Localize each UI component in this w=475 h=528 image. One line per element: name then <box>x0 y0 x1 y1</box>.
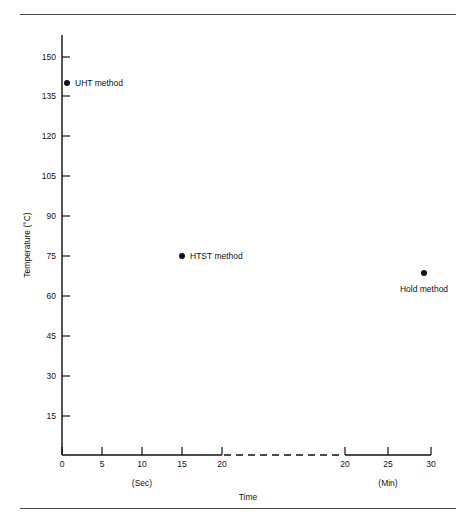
data-point-marker[interactable] <box>64 80 70 86</box>
data-point-label-uht: UHT method <box>75 78 123 88</box>
y-tick-label-15: 15 <box>47 411 57 421</box>
y-axis: 150 135 120 105 90 75 60 45 30 15 Temper… <box>22 35 70 455</box>
data-point-label-htst: HTST method <box>190 251 243 261</box>
x-axis-ticks-seconds <box>62 447 222 455</box>
y-axis-title: Temperature (°C) <box>22 212 32 277</box>
y-tick-label-90: 90 <box>47 211 57 221</box>
x-axis: 0 5 10 15 20 20 25 30 (Sec) (Min) Time <box>60 447 436 502</box>
x-tick-label-sec-0: 0 <box>60 459 65 469</box>
scatter-plot: 150 135 120 105 90 75 60 45 30 15 Temper… <box>0 0 475 528</box>
x-tick-label-min-30: 30 <box>426 459 436 469</box>
y-tick-label-120: 120 <box>42 131 56 141</box>
data-point-label-hold: Hold method <box>400 284 448 294</box>
y-tick-label-75: 75 <box>47 251 57 261</box>
y-tick-label-45: 45 <box>47 331 57 341</box>
x-axis-ticks-minutes <box>345 447 431 455</box>
data-point-hold-method[interactable]: Hold method <box>400 270 448 294</box>
x-tick-label-sec-15: 15 <box>177 459 187 469</box>
data-point-marker[interactable] <box>421 270 427 276</box>
data-point-htst-method[interactable]: HTST method <box>179 251 243 261</box>
x-tick-label-min-20: 20 <box>340 459 350 469</box>
data-point-marker[interactable] <box>179 253 185 259</box>
figure-container: 150 135 120 105 90 75 60 45 30 15 Temper… <box>0 0 475 528</box>
x-tick-label-sec-5: 5 <box>100 459 105 469</box>
y-axis-ticks <box>62 57 70 416</box>
y-tick-label-135: 135 <box>42 91 56 101</box>
x-tick-label-sec-10: 10 <box>137 459 147 469</box>
data-point-uht-method[interactable]: UHT method <box>64 78 123 88</box>
x-axis-tick-labels-seconds: 0 5 10 15 20 <box>60 459 227 469</box>
y-tick-label-30: 30 <box>47 371 57 381</box>
y-tick-label-60: 60 <box>47 291 57 301</box>
x-axis-unit-minutes: (Min) <box>378 478 398 488</box>
x-tick-label-min-25: 25 <box>383 459 393 469</box>
x-axis-tick-labels-minutes: 20 25 30 <box>340 459 436 469</box>
y-axis-tick-labels: 150 135 120 105 90 75 60 45 30 15 <box>42 52 56 421</box>
x-axis-unit-seconds: (Sec) <box>132 478 152 488</box>
y-tick-label-105: 105 <box>42 171 56 181</box>
x-tick-label-sec-20: 20 <box>217 459 227 469</box>
y-tick-label-150: 150 <box>42 52 56 62</box>
x-axis-title: Time <box>239 492 258 502</box>
data-points: UHT method HTST method Hold method <box>64 78 448 294</box>
